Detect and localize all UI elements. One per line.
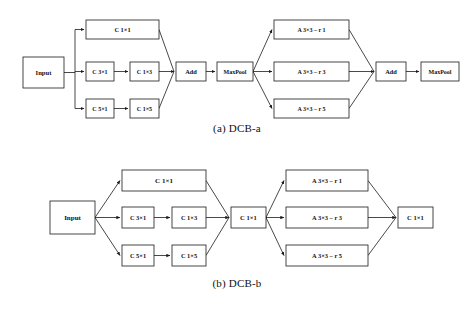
node-b-c1x1-top: C 1×1 bbox=[122, 170, 206, 191]
node-b-c3x1: C 3×1 bbox=[122, 207, 154, 228]
diagram-dcb-b: Input C 1×1 C 3×1 C 1×3 C 5×1 C 1×5 bbox=[0, 0, 474, 311]
nodes-dcb-b: Input C 1×1 C 3×1 C 1×3 C 5×1 C 1×5 bbox=[50, 170, 433, 266]
edge-b-input-c51 bbox=[95, 218, 120, 256]
node-b-c1x1-out-label: C 1×1 bbox=[407, 214, 424, 221]
edge-b-c11-mid bbox=[206, 181, 229, 218]
node-b-c1x1-top-label: C 1×1 bbox=[155, 177, 173, 185]
edge-b-input-c11 bbox=[95, 181, 120, 218]
node-b-a3x3-r3-label: A 3×3 – r 3 bbox=[312, 214, 342, 221]
node-b-c1x1-out: C 1×1 bbox=[398, 207, 433, 228]
node-b-a3x3-r5: A 3×3 – r 5 bbox=[286, 245, 368, 266]
node-b-c1x5-label: C 1×5 bbox=[181, 252, 197, 259]
node-b-a3x3-r3: A 3×3 – r 3 bbox=[286, 207, 368, 228]
figure-root: Input C 1×1 C 3×1 C 1×3 C 5×1 C 1×5 bbox=[0, 0, 474, 311]
node-b-c1x1-mid: C 1×1 bbox=[231, 207, 266, 228]
node-b-c5x1: C 5×1 bbox=[122, 245, 154, 266]
edge-b-ar5-out bbox=[368, 218, 396, 256]
edge-b-mid-ar1 bbox=[266, 181, 284, 218]
node-b-c1x3-label: C 1×3 bbox=[181, 214, 197, 221]
edge-b-mid-ar5 bbox=[266, 218, 284, 256]
edge-b-ar1-out bbox=[368, 181, 396, 218]
node-b-c5x1-label: C 5×1 bbox=[130, 252, 146, 259]
node-b-c1x3: C 1×3 bbox=[172, 207, 206, 228]
node-b-c3x1-label: C 3×1 bbox=[130, 214, 146, 221]
node-b-a3x3-r5-label: A 3×3 – r 5 bbox=[312, 252, 342, 259]
node-b-a3x3-r1-label: A 3×3 – r 1 bbox=[312, 177, 342, 184]
node-b-input-label: Input bbox=[64, 214, 81, 222]
edge-b-c15-mid bbox=[206, 218, 229, 256]
node-b-a3x3-r1: A 3×3 – r 1 bbox=[286, 170, 368, 191]
node-b-input: Input bbox=[50, 201, 95, 234]
node-b-c1x1-mid-label: C 1×1 bbox=[240, 214, 257, 221]
node-b-c1x5: C 1×5 bbox=[172, 245, 206, 266]
caption-dcb-b: (b) DCB-b bbox=[0, 277, 474, 289]
